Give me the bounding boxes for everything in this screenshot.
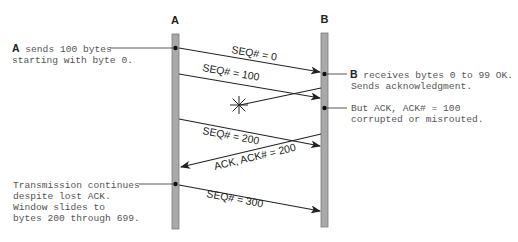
annotation-b-receives-line1: receives bytes 0 to 99 OK. [358,70,513,81]
annotation-b-receives: B receives bytes 0 to 99 OK. Sends ackno… [350,68,513,92]
timeline-b [321,33,328,227]
annotation-a-sends: A sends 100 bytes starting with byte 0. [12,42,133,66]
message-seq-200-label: SEQ# = 200 [202,124,261,146]
event-dot-b-ack-lost [322,106,326,110]
message-seq-300-label: SEQ# = 300 [206,187,265,209]
annotation-a-sends-line1: sends 100 bytes [20,44,112,55]
event-dot-b-receive [322,72,326,76]
timeline-a [172,34,179,229]
annotation-a-sends-line2: starting with byte 0. [12,55,133,66]
annotation-continues-line4: bytes 200 through 699. [13,213,140,224]
lost-packet-star-icon [230,96,248,114]
annotation-ack-lost-line1: But ACK, ACK# = 100 [351,103,461,114]
svg-text:A sends 100 bytes: A sends 100 bytes [12,42,112,55]
annotation-continues-line3: Window slides to [13,202,105,213]
node-a-label: A [171,14,179,26]
tcp-sliding-window-diagram: A B SEQ# = 0 SEQ# = 100 SEQ# = 200 ACK, … [0,0,518,242]
svg-text:B receives bytes 0 to 99 OK.: B receives bytes 0 to 99 OK. [350,68,513,81]
message-seq-0-label: SEQ# = 0 [231,43,278,63]
node-b-label: B [321,13,329,25]
annotation-ack-lost: But ACK, ACK# = 100 corrupted or misrout… [351,103,483,125]
annotation-ack-lost-line2: corrupted or misrouted. [351,114,483,125]
annotation-continues: Transmission continues despite lost ACK.… [13,180,140,224]
annotation-b-receives-line2: Sends acknowledgment. [351,81,472,92]
annotation-continues-line1: Transmission continues [13,180,140,191]
annotation-continues-line2: despite lost ACK. [13,191,111,202]
